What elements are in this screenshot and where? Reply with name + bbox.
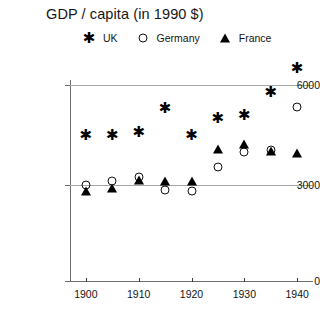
y-axis-line: [70, 80, 71, 282]
data-point-uk-1925: ✱: [211, 112, 224, 125]
x-tick-mark-1900: [86, 278, 87, 282]
y-tick-mark-3000: [65, 185, 70, 186]
data-point-uk-1910: ✱: [132, 125, 145, 138]
y-tick-mark-6000: [65, 85, 70, 86]
data-point-uk-1915: ✱: [159, 102, 172, 115]
data-point-france-1900: [81, 187, 91, 196]
data-point-uk-1930: ✱: [238, 109, 251, 122]
data-point-france-1925: [213, 145, 223, 154]
data-point-uk-1900: ✱: [79, 129, 92, 142]
data-point-uk-1935: ✱: [264, 85, 277, 98]
x-tick-label-1930: 1930: [233, 288, 256, 300]
data-point-germany-1940: [293, 102, 302, 111]
y-tick-label-0: 0: [258, 275, 320, 287]
data-point-uk-1920: ✱: [185, 129, 198, 142]
x-tick-label-1920: 1920: [180, 288, 203, 300]
x-tick-mark-1940: [297, 278, 298, 282]
data-point-france-1930: [239, 140, 249, 149]
data-point-france-1910: [134, 176, 144, 185]
plot-area: 03000600019001910192019301940✱✱✱✱✱✱✱✱✱: [0, 0, 320, 315]
x-tick-label-1910: 1910: [127, 288, 150, 300]
data-point-germany-1925: [213, 162, 222, 171]
data-point-uk-1940: ✱: [291, 62, 304, 75]
x-tick-mark-1930: [244, 278, 245, 282]
data-point-france-1915: [160, 176, 170, 185]
x-tick-mark-1910: [139, 278, 140, 282]
x-tick-mark-1920: [192, 278, 193, 282]
x-tick-label-1940: 1940: [285, 288, 308, 300]
data-point-france-1940: [292, 148, 302, 157]
x-tick-label-1900: 1900: [74, 288, 97, 300]
y-tick-mark-0: [65, 281, 70, 282]
data-point-france-1935: [266, 146, 276, 155]
data-point-germany-1915: [161, 185, 170, 194]
y-tick-label-3000: 3000: [258, 179, 320, 191]
data-point-france-1905: [107, 184, 117, 193]
data-point-uk-1905: ✱: [106, 129, 119, 142]
data-point-france-1920: [187, 176, 197, 185]
data-point-germany-1920: [187, 187, 196, 196]
chart-container: GDP / capita (in 1990 $) ✱UKGermanyFranc…: [0, 0, 320, 315]
